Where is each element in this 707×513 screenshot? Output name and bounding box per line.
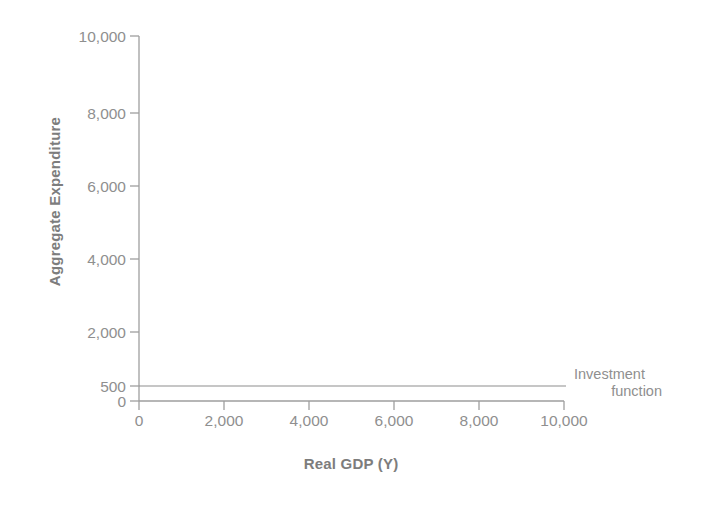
- x-axis-ticks: [139, 401, 564, 410]
- y-axis-ticks: [130, 36, 139, 401]
- chart-figure: Aggregate Expenditure Real GDP (Y) 10,00…: [0, 0, 707, 513]
- annotation-line-2: function: [574, 383, 662, 400]
- annotation-investment-function: Investment function: [574, 366, 704, 400]
- annotation-line-1: Investment: [574, 366, 645, 382]
- plot-area: [0, 0, 707, 513]
